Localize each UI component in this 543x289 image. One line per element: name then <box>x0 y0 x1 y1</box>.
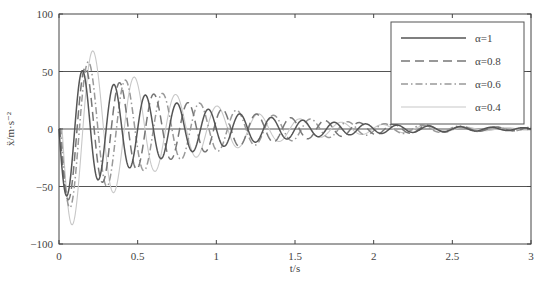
y-tick-label: 100 <box>37 8 54 20</box>
x-tick-label: 1.5 <box>288 250 302 262</box>
y-tick-label: −50 <box>36 181 54 193</box>
x-tick-label: 2.5 <box>445 250 459 262</box>
x-tick-label: 0.5 <box>131 250 145 262</box>
x-tick-label: 0 <box>56 250 62 262</box>
legend-label-0: α=1 <box>475 32 492 44</box>
x-tick-label: 2 <box>371 250 377 262</box>
legend-label-3: α=0.4 <box>475 101 501 113</box>
x-axis-title: t/s <box>290 262 300 274</box>
x-tick-label: 3 <box>528 250 534 262</box>
y-tick-label: −100 <box>30 238 53 250</box>
y-axis-title: ẍ/m·s⁻² <box>4 111 16 146</box>
damped-oscillation-chart: 00.511.522.53 −100−50050100 t/s ẍ/m·s⁻² … <box>0 0 543 289</box>
legend: α=1α=0.8α=0.6α=0.4 <box>391 22 524 124</box>
x-tick-label: 1 <box>214 250 220 262</box>
legend-label-2: α=0.6 <box>475 78 501 90</box>
y-tick-label: 50 <box>42 66 54 78</box>
y-tick-label: 0 <box>48 123 54 135</box>
legend-label-1: α=0.8 <box>475 55 501 67</box>
